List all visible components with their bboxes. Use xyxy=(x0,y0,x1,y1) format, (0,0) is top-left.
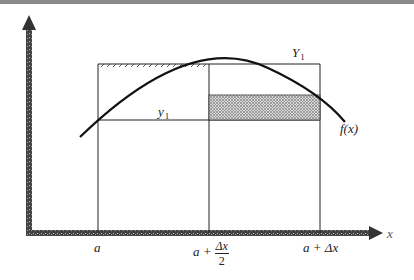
x-axis-arrow-icon xyxy=(369,226,383,240)
tick-label-midpoint: a +Δx2 xyxy=(193,240,229,267)
curve-label: f(x) xyxy=(340,122,358,135)
x-axis-label: x xyxy=(387,227,393,240)
lower-value-label: y1 xyxy=(158,105,169,118)
tick-label-a: a xyxy=(94,241,101,254)
y-axis-arrow-icon xyxy=(22,15,36,30)
upper-value-label: Y1 xyxy=(292,46,305,59)
shaded-difference-region xyxy=(209,95,320,120)
tick-label-end: a + Δx xyxy=(303,241,338,254)
y-axis xyxy=(22,15,36,235)
x-axis xyxy=(26,226,383,240)
diagram-canvas xyxy=(0,0,414,280)
upper-rectangle xyxy=(98,64,320,233)
